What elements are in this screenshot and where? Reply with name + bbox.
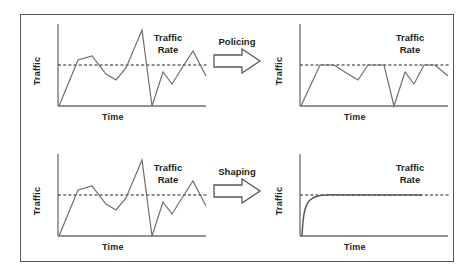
x-axis-label: Time <box>102 112 124 122</box>
traffic-rate-label: Traffic Rate <box>138 32 198 56</box>
y-axis-label: Traffic <box>274 178 284 224</box>
traffic-rate-label-line1: Traffic <box>138 32 198 44</box>
x-axis-label: Time <box>344 242 366 252</box>
traffic-rate-label: Traffic Rate <box>380 162 440 186</box>
traffic-rate-label-line2: Rate <box>138 174 198 186</box>
y-axis-label: Traffic <box>32 178 42 224</box>
panel-shaping-output: Traffic Time Traffic Rate <box>272 150 452 260</box>
traffic-rate-label: Traffic Rate <box>138 162 198 186</box>
policing-operation: Policing <box>208 36 266 74</box>
y-axis-label: Traffic <box>274 48 284 94</box>
traffic-rate-label-line2: Rate <box>138 44 198 56</box>
traffic-rate-label-line1: Traffic <box>380 162 440 174</box>
traffic-policing-shaping-diagram: Traffic Time Traffic Rate Policing Traff… <box>0 0 473 279</box>
panel-policing-output: Traffic Time Traffic Rate <box>272 20 452 130</box>
traffic-rate-label-line1: Traffic <box>380 32 440 44</box>
traffic-rate-label-line2: Rate <box>380 174 440 186</box>
policing-label: Policing <box>208 36 266 47</box>
panel-policing-input: Traffic Time Traffic Rate <box>30 20 210 130</box>
traffic-shaped-curve <box>302 195 422 236</box>
traffic-rate-label-line1: Traffic <box>138 162 198 174</box>
x-axis-label: Time <box>344 112 366 122</box>
shaping-arrow-icon <box>212 178 262 204</box>
panel-shaping-input: Traffic Time Traffic Rate <box>30 150 210 260</box>
traffic-waveform <box>301 65 448 106</box>
traffic-rate-label: Traffic Rate <box>380 32 440 56</box>
x-axis-label: Time <box>102 242 124 252</box>
traffic-rate-label-line2: Rate <box>380 44 440 56</box>
policing-arrow-icon <box>212 48 262 74</box>
shaping-operation: Shaping <box>208 166 266 204</box>
y-axis-label: Traffic <box>32 48 42 94</box>
shaping-label: Shaping <box>208 166 266 177</box>
